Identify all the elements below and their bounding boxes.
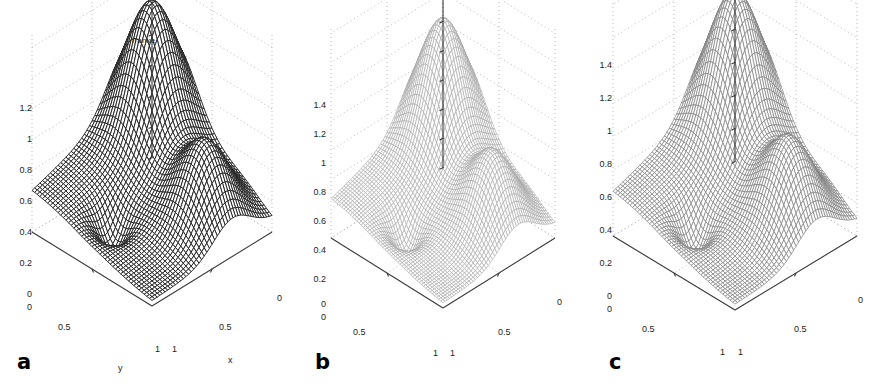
y-tick-a-half: 0.5	[58, 323, 71, 332]
panel-letter-b: b	[315, 352, 330, 373]
z-tick-c-origin: 0	[586, 305, 612, 314]
z-tick-c-2: 1.2	[586, 94, 612, 103]
x-tick-b-one: 1	[450, 349, 455, 358]
x-tick-b-half: 0.5	[498, 328, 511, 337]
x-tick-a-half: 0.5	[219, 323, 232, 332]
z-tick-a-1: 1.2	[6, 104, 32, 113]
x-tick-a-zero: 0	[277, 294, 282, 303]
panel-a: franke 1.2 1 0.8 0.6 0.4 0.2 0 0 0.5 1 1…	[0, 0, 300, 391]
z-tick-c-1: 1.4	[586, 61, 612, 70]
y-tick-a-one: 1	[155, 345, 160, 354]
figure-canvas: franke 1.2 1 0.8 0.6 0.4 0.2 0 0 0.5 1 1…	[0, 0, 889, 391]
z-tick-b-origin: 0	[300, 313, 326, 322]
plot-title-a: franke	[132, 36, 155, 45]
y-tick-c-half: 0.5	[642, 325, 655, 334]
x-tick-a-one: 1	[172, 345, 177, 354]
z-tick-b-5: 0.6	[300, 217, 326, 226]
z-tick-c-7: 0.2	[586, 259, 612, 268]
z-tick-c-5: 0.6	[586, 193, 612, 202]
z-tick-b-2: 1.2	[300, 130, 326, 139]
y-tick-b-one: 1	[433, 349, 438, 358]
x-tick-c-zero: 0	[858, 296, 863, 305]
z-tick-b-6: 0.4	[300, 246, 326, 255]
z-tick-a-4: 0.6	[6, 197, 32, 206]
panel-letter-a: a	[17, 352, 31, 373]
surface-plot-a	[0, 0, 300, 391]
z-tick-a-2: 1	[6, 135, 32, 144]
z-tick-a-5: 0.4	[6, 228, 32, 237]
panel-c: 1.4 1.2 1 0.8 0.6 0.4 0.2 0 0 0.5 1 1 0.…	[592, 0, 889, 391]
x-tick-c-one: 1	[738, 348, 743, 357]
z-tick-b-1: 1.4	[300, 101, 326, 110]
x-tick-c-half: 0.5	[794, 325, 807, 334]
z-tick-c-6: 0.4	[586, 226, 612, 235]
surface-plot-b	[298, 0, 598, 391]
z-tick-b-3: 1	[300, 159, 326, 168]
z-tick-c-3: 1	[586, 127, 612, 136]
z-tick-a-origin: 0	[6, 303, 32, 312]
z-tick-b-4: 0.8	[300, 188, 326, 197]
x-tick-b-zero: 0	[557, 298, 562, 307]
z-tick-a-3: 0.8	[6, 166, 32, 175]
panel-b: 1.4 1.2 1 0.8 0.6 0.4 0.2 0 0 0.5 1 1 0.…	[298, 0, 598, 391]
panel-letter-c: c	[609, 352, 621, 373]
z-tick-c-8: 0	[586, 292, 612, 301]
y-tick-c-one: 1	[720, 348, 725, 357]
y-tick-b-half: 0.5	[353, 328, 366, 337]
axis-label-y-a: y	[118, 364, 123, 373]
z-tick-a-7: 0	[6, 290, 32, 299]
axis-label-x-a: x	[228, 356, 233, 365]
z-tick-b-7: 0.2	[300, 275, 326, 284]
surface-plot-c	[592, 0, 889, 391]
z-tick-c-4: 0.8	[586, 160, 612, 169]
z-tick-a-6: 0.2	[6, 259, 32, 268]
z-tick-b-8: 0	[300, 300, 326, 309]
